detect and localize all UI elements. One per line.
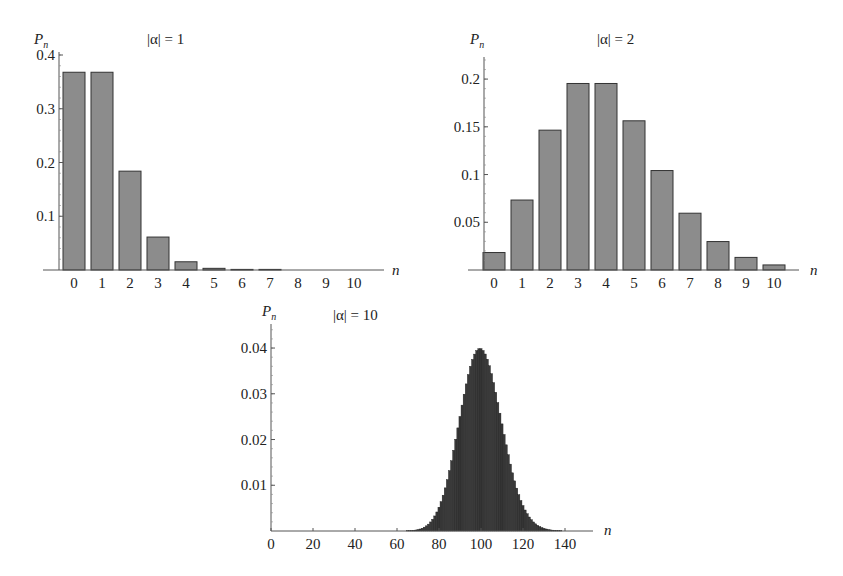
bar-n-94 <box>467 375 469 531</box>
x-tick-label: 10 <box>767 275 782 291</box>
bar-n-6 <box>651 171 673 270</box>
y-axis-title: Pn <box>261 303 276 322</box>
panel-alpha-10: Pn |α| = 10 n 0204060801001201400.010.02… <box>241 303 612 552</box>
bar-n-74 <box>425 526 427 531</box>
y-axis-title: Pn <box>469 31 484 50</box>
x-tick-label: 8 <box>714 275 722 291</box>
x-tick-label: 80 <box>432 536 447 552</box>
bar-n-77 <box>432 519 434 531</box>
bar-n-75 <box>427 524 429 531</box>
bar-n-87 <box>453 450 455 531</box>
bar-n-4 <box>175 262 197 270</box>
y-tick-label: 0.05 <box>454 214 480 230</box>
x-tick-label: 8 <box>294 275 302 291</box>
bar-n-7 <box>679 213 701 270</box>
bar-n-81 <box>440 502 442 531</box>
chart-title: |α| = 10 <box>333 307 378 323</box>
bar-n-110 <box>501 424 503 531</box>
y-tick-label: 0.4 <box>36 47 55 63</box>
y-tick-label: 0.1 <box>461 167 480 183</box>
x-tick-label: 0 <box>70 275 78 291</box>
bar-n-114 <box>509 464 511 531</box>
bar-n-86 <box>451 461 453 531</box>
bar-n-126 <box>535 524 537 531</box>
x-tick-label: 40 <box>348 536 363 552</box>
bar-n-121 <box>524 510 526 531</box>
bar-n-3 <box>147 237 169 270</box>
chart-title: |α| = 1 <box>147 31 184 47</box>
bar-n-99 <box>478 349 480 531</box>
bar-n-4 <box>595 83 617 270</box>
x-tick-label: 7 <box>266 275 274 291</box>
bar-n-123 <box>528 517 530 531</box>
bar-n-2 <box>539 130 561 270</box>
y-tick-label: 0.04 <box>241 340 268 356</box>
bar-n-73 <box>423 527 425 531</box>
x-tick-label: 1 <box>518 275 526 291</box>
x-tick-label: 100 <box>470 536 493 552</box>
x-tick-label: 1 <box>98 275 106 291</box>
y-tick-label: 0.15 <box>454 119 480 135</box>
x-tick-label: 3 <box>574 275 582 291</box>
y-tick-label: 0.01 <box>241 477 267 493</box>
bar-n-106 <box>493 383 495 531</box>
bar-n-102 <box>484 354 486 531</box>
bar-n-0 <box>63 72 85 270</box>
x-tick-label: 6 <box>658 275 666 291</box>
x-tick-label: 5 <box>630 275 638 291</box>
bar-n-95 <box>469 366 471 531</box>
bar-n-127 <box>537 525 539 531</box>
bars <box>406 349 561 531</box>
x-tick-label: 2 <box>546 275 554 291</box>
bar-n-101 <box>482 351 484 531</box>
bar-n-0 <box>483 253 505 270</box>
y-tick-label: 0.1 <box>36 208 55 224</box>
bar-n-3 <box>567 83 589 270</box>
y-tick-label: 0.2 <box>461 71 480 87</box>
bar-n-105 <box>490 374 492 531</box>
y-tick-label: 0.3 <box>36 101 55 117</box>
bar-n-9 <box>735 257 757 270</box>
x-tick-label: 5 <box>210 275 218 291</box>
bar-n-125 <box>532 522 534 531</box>
bar-n-80 <box>438 507 440 531</box>
x-tick-label: 10 <box>347 275 362 291</box>
bar-n-107 <box>495 392 497 531</box>
panel-alpha-2: Pn |α| = 2 n 0123456789100.050.10.150.2 <box>454 31 818 291</box>
bar-n-116 <box>514 481 516 531</box>
bar-n-111 <box>503 434 505 531</box>
bars <box>483 83 785 270</box>
panel-alpha-1: Pn |α| = 1 n 0123456789100.10.20.30.4 <box>33 31 400 291</box>
bar-n-83 <box>444 488 446 531</box>
bar-n-5 <box>623 121 645 270</box>
bar-n-97 <box>474 354 476 531</box>
bar-n-91 <box>461 405 463 531</box>
bar-n-115 <box>511 473 513 531</box>
bar-n-90 <box>459 416 461 531</box>
bar-n-1 <box>91 72 113 270</box>
bar-n-120 <box>522 506 524 531</box>
x-tick-label: 20 <box>306 536 321 552</box>
x-tick-label: 0 <box>490 275 498 291</box>
bar-n-76 <box>430 522 432 531</box>
x-axis-title: n <box>604 522 612 538</box>
x-tick-label: 4 <box>182 275 190 291</box>
bar-n-103 <box>486 359 488 531</box>
x-tick-label: 140 <box>554 536 577 552</box>
figure: Pn |α| = 1 n 0123456789100.10.20.30.4 Pn… <box>0 0 843 576</box>
bar-n-119 <box>520 500 522 531</box>
bar-n-108 <box>497 403 499 531</box>
x-tick-label: 0 <box>267 536 275 552</box>
bar-n-117 <box>516 488 518 531</box>
x-tick-label: 120 <box>512 536 535 552</box>
bar-n-98 <box>476 351 478 531</box>
x-tick-label: 6 <box>238 275 246 291</box>
bar-n-79 <box>436 512 438 531</box>
bar-n-129 <box>541 528 543 531</box>
bar-n-92 <box>463 394 465 531</box>
bar-n-82 <box>442 495 444 531</box>
x-axis-title: n <box>392 262 400 278</box>
bar-n-128 <box>539 527 541 531</box>
bar-n-112 <box>505 445 507 531</box>
bar-n-109 <box>499 413 501 531</box>
